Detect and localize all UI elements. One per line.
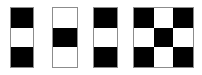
figure-4-cell-r2c1 [134, 28, 154, 48]
figure-3-cell-r3c1 [94, 47, 117, 67]
figure-4-cell-r3c2 [154, 47, 174, 67]
figure-1 [10, 7, 34, 68]
figure-4-cell-r2c2 [154, 28, 174, 48]
figure-3-cell-r1c1 [94, 8, 117, 28]
figure-4-cell-r2c3 [173, 28, 193, 48]
figure-3 [93, 7, 118, 68]
figure-1-cell-r2c1 [11, 28, 33, 48]
figure-2-cell-r1c1 [53, 8, 77, 28]
figure-4-cell-r3c3 [173, 47, 193, 67]
figure-4 [133, 7, 194, 68]
figure-4-cell-r1c1 [134, 8, 154, 28]
figure-4-cell-r1c3 [173, 8, 193, 28]
figure-2 [52, 7, 78, 68]
figure-canvas [0, 0, 202, 75]
figure-1-cell-r1c1 [11, 8, 33, 28]
figure-1-cell-r3c1 [11, 47, 33, 67]
figure-2-cell-r2c1 [53, 28, 77, 48]
figure-4-cell-r1c2 [154, 8, 174, 28]
figure-2-cell-r3c1 [53, 47, 77, 67]
figure-4-cell-r3c1 [134, 47, 154, 67]
figure-3-cell-r2c1 [94, 28, 117, 48]
